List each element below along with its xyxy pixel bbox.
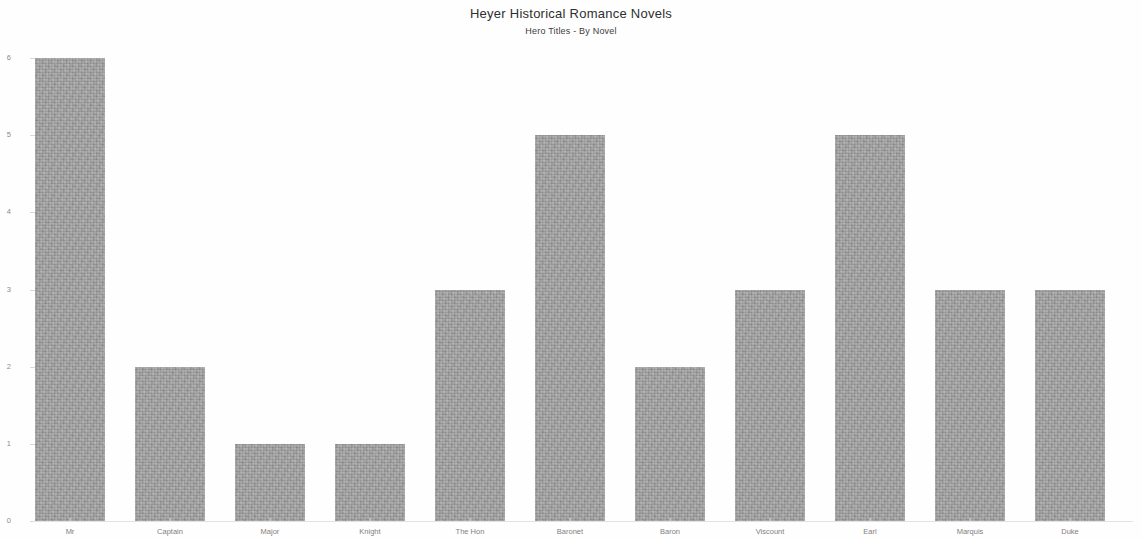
x-axis-tick-label: Baronet [520, 527, 620, 537]
x-axis-tick-label: The Hon [420, 527, 520, 537]
bar[interactable] [935, 290, 1005, 522]
bar-group: The Hon [435, 0, 505, 541]
x-axis-tick-mark [570, 518, 571, 521]
x-axis-tick-mark [670, 518, 671, 521]
bar-group: Knight [335, 0, 405, 541]
bar[interactable] [435, 290, 505, 522]
bar[interactable] [835, 135, 905, 521]
x-axis-tick-mark [870, 518, 871, 521]
bar[interactable] [635, 367, 705, 521]
bar-group: Baron [635, 0, 705, 541]
bar-group: Captain [135, 0, 205, 541]
bar-group: Major [235, 0, 305, 541]
bar[interactable] [235, 444, 305, 521]
x-axis-tick-label: Mr [20, 527, 120, 537]
x-axis-tick-label: Viscount [720, 527, 820, 537]
x-axis-tick-label: Baron [620, 527, 720, 537]
bar-group: Mr [35, 0, 105, 541]
x-axis-tick-mark [1070, 518, 1071, 521]
bar[interactable] [735, 290, 805, 522]
x-axis-tick-mark [470, 518, 471, 521]
x-axis-tick-mark [170, 518, 171, 521]
bar[interactable] [1035, 290, 1105, 522]
x-axis-tick-mark [270, 518, 271, 521]
bar-group: Earl [835, 0, 905, 541]
bars-layer: MrCaptainMajorKnightThe HonBaronetBaronV… [0, 0, 1142, 541]
bar[interactable] [535, 135, 605, 521]
bar[interactable] [35, 58, 105, 521]
x-axis-tick-label: Major [220, 527, 320, 537]
bar[interactable] [335, 444, 405, 521]
x-axis-tick-mark [370, 518, 371, 521]
bar[interactable] [135, 367, 205, 521]
x-axis-tick-label: Duke [1020, 527, 1120, 537]
x-axis-tick-mark [770, 518, 771, 521]
bar-group: Marquis [935, 0, 1005, 541]
x-axis-tick-mark [970, 518, 971, 521]
x-axis-tick-label: Knight [320, 527, 420, 537]
x-axis-tick-label: Earl [820, 527, 920, 537]
x-axis-tick-label: Marquis [920, 527, 1020, 537]
x-axis-tick-label: Captain [120, 527, 220, 537]
bar-group: Duke [1035, 0, 1105, 541]
x-axis-tick-mark [70, 518, 71, 521]
chart-page: Heyer Historical Romance Novels Hero Tit… [0, 0, 1142, 541]
bar-group: Baronet [535, 0, 605, 541]
bar-group: Viscount [735, 0, 805, 541]
plot-area: 0123456 MrCaptainMajorKnightThe HonBaron… [0, 0, 1142, 541]
